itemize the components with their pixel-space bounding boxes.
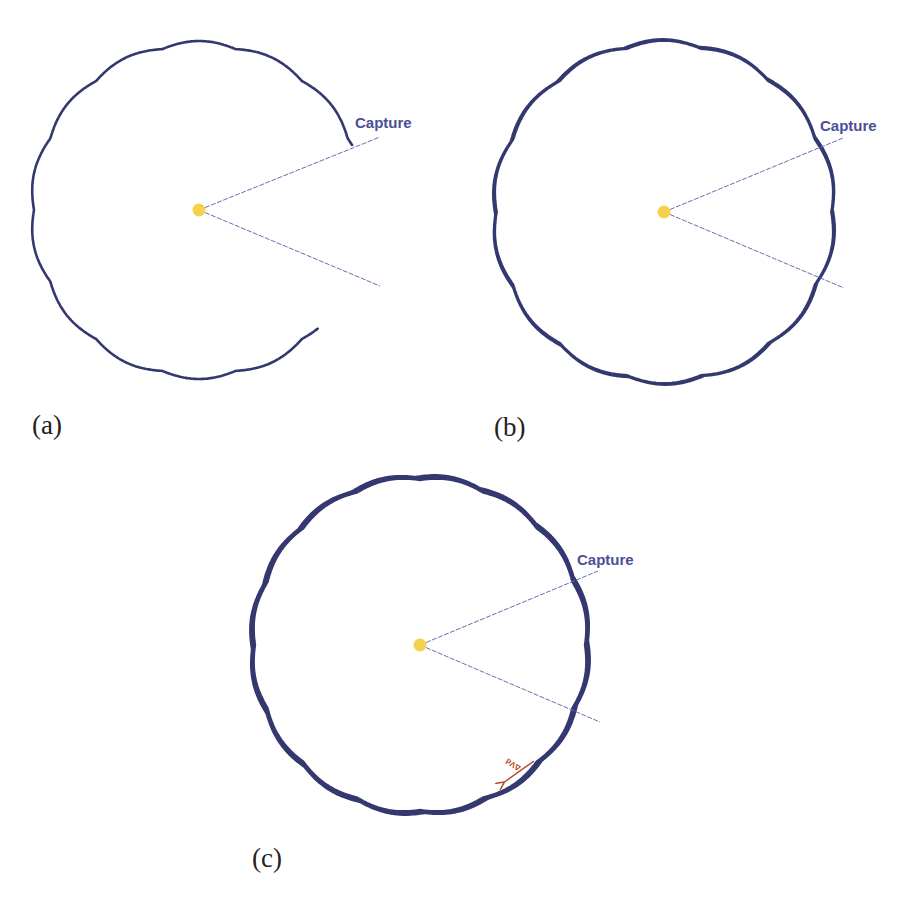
- capture-label: Capture: [820, 117, 877, 134]
- panel-a: Capture (a): [32, 41, 412, 440]
- panel-label-b: (b): [494, 412, 525, 442]
- capture-boundary-line-upper: [664, 138, 843, 212]
- orbit-spiral-trajectory: [32, 41, 352, 379]
- panel-b: Capture (b): [493, 39, 877, 442]
- three-panel-orbit-diagram: Capture (a) Capture (b) Capture ΔVd (c): [0, 0, 907, 898]
- panel-label-c: (c): [252, 843, 282, 873]
- central-body-icon: [658, 206, 671, 219]
- panel-label-a: (a): [32, 410, 62, 440]
- capture-label: Capture: [577, 551, 634, 568]
- capture-label: Capture: [355, 114, 412, 131]
- capture-boundary-line-upper: [420, 571, 598, 645]
- capture-boundary-line-lower: [420, 645, 600, 722]
- delta-v-label: ΔVd: [504, 756, 522, 772]
- capture-boundary-line-lower: [199, 210, 380, 286]
- capture-boundary-line-lower: [664, 212, 844, 288]
- capture-boundary-line-upper: [199, 137, 380, 210]
- central-body-icon: [193, 204, 206, 217]
- panel-c: Capture ΔVd (c): [250, 475, 633, 873]
- central-body-icon: [414, 639, 427, 652]
